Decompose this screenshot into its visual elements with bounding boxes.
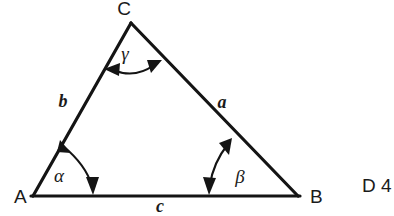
side-label-c: c bbox=[156, 196, 164, 216]
side-label-b: b bbox=[59, 91, 68, 111]
side-label-a: a bbox=[218, 92, 227, 112]
figure-page: A B C a b c α β γ D 4 bbox=[0, 0, 394, 216]
angle-label-beta: β bbox=[234, 166, 245, 187]
vertex-label-b: B bbox=[310, 186, 323, 207]
vertex-label-a: A bbox=[14, 186, 27, 207]
vertex-label-c: C bbox=[117, 0, 131, 19]
angle-beta-arrowhead-lower bbox=[203, 177, 216, 195]
triangle-diagram: A B C a b c α β γ D 4 bbox=[0, 0, 394, 216]
angle-alpha-arrowhead-lower bbox=[86, 177, 99, 195]
angle-label-alpha: α bbox=[54, 165, 65, 186]
margin-page-marker: D 4 bbox=[362, 175, 392, 196]
angle-gamma-arrowhead-right bbox=[147, 60, 162, 73]
angle-label-gamma: γ bbox=[121, 43, 129, 64]
triangle-side-b-line bbox=[33, 23, 131, 196]
